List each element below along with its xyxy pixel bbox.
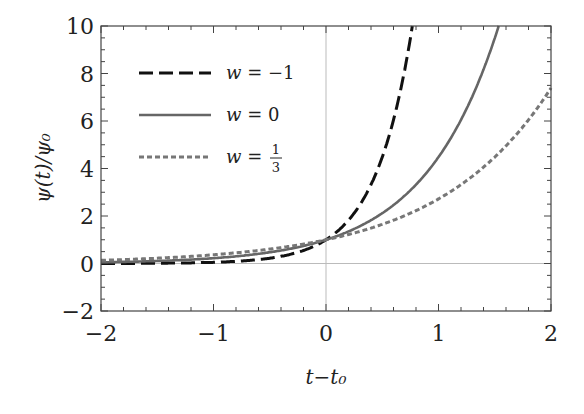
legend-label: w = −1 bbox=[226, 62, 294, 83]
legend-label: w = 0 bbox=[226, 104, 279, 125]
y-tick-label: 10 bbox=[66, 14, 94, 39]
x-tick-label: −1 bbox=[197, 321, 229, 346]
y-tick-label: 6 bbox=[80, 109, 94, 134]
y-tick-label: 4 bbox=[80, 157, 94, 182]
series-line-1 bbox=[101, 26, 499, 262]
y-axis-title: ψ(t)/ψ₀ bbox=[31, 133, 55, 203]
x-tick-label: 1 bbox=[432, 321, 446, 346]
x-tick-labels: −2−1012 bbox=[85, 321, 558, 346]
x-tick-label: −2 bbox=[85, 321, 117, 346]
y-tick-label: 0 bbox=[80, 252, 94, 277]
y-tick-label: −2 bbox=[62, 299, 94, 324]
y-tick-label: 2 bbox=[80, 204, 94, 229]
legend-fraction-numerator: 1 bbox=[272, 142, 280, 157]
x-axis-title: t−t₀ bbox=[306, 365, 347, 389]
legend-fraction-denominator: 3 bbox=[272, 160, 280, 175]
x-tick-label: 0 bbox=[319, 321, 333, 346]
legend-label: w = bbox=[226, 146, 262, 167]
x-tick-label: 2 bbox=[544, 321, 558, 346]
legend: w = −1w = 0w = 13 bbox=[139, 62, 294, 175]
chart: −2−1012 −20246810 t−t₀ ψ(t)/ψ₀ w = −1w =… bbox=[0, 0, 584, 414]
y-tick-labels: −20246810 bbox=[62, 14, 94, 324]
y-tick-label: 8 bbox=[80, 62, 94, 87]
